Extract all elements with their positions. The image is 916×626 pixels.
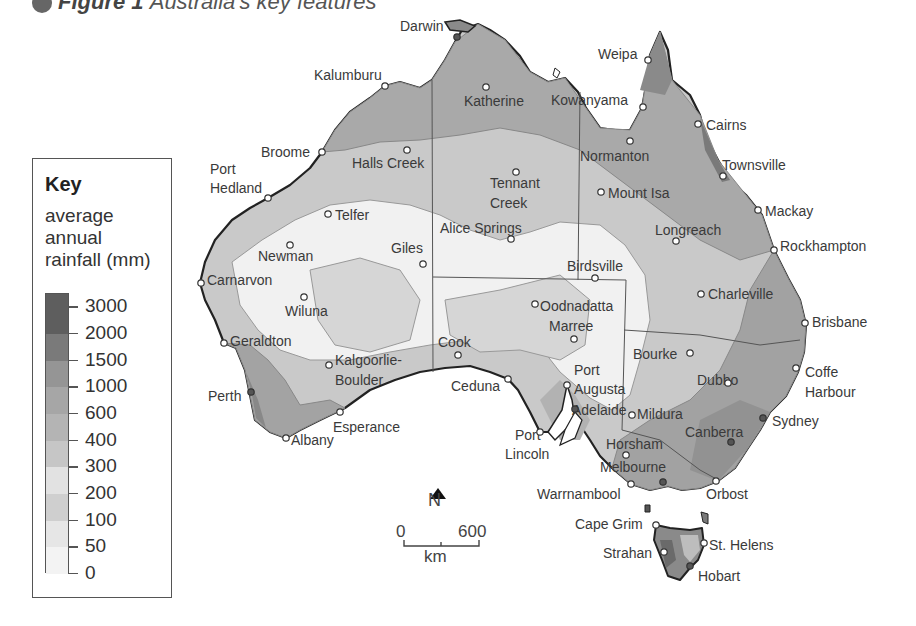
town-marker-icon xyxy=(598,189,604,195)
town-marker-icon xyxy=(653,522,659,528)
capital-city-marker-icon xyxy=(248,389,254,395)
legend-label: 200 xyxy=(85,482,117,504)
town-marker-icon xyxy=(698,291,704,297)
town-marker-icon xyxy=(802,320,808,326)
legend-label: 2000 xyxy=(85,322,127,344)
town-marker-icon xyxy=(713,478,719,484)
legend-tick xyxy=(68,466,78,467)
town-marker-icon xyxy=(640,104,646,110)
town-marker-icon xyxy=(755,207,761,213)
town-marker-icon xyxy=(661,549,667,555)
town-marker-icon xyxy=(505,376,511,382)
town-marker-icon xyxy=(695,121,701,127)
town-marker-icon xyxy=(627,138,633,144)
town-marker-icon xyxy=(508,236,514,242)
legend-swatch xyxy=(46,361,68,388)
capital-city-marker-icon xyxy=(660,479,666,485)
town-marker-icon xyxy=(221,340,227,346)
rainfall-color-bar xyxy=(45,293,69,573)
town-marker-icon xyxy=(571,336,577,342)
town-marker-icon xyxy=(532,301,538,307)
town-marker-icon xyxy=(265,195,271,201)
town-marker-icon xyxy=(537,429,543,435)
town-marker-icon xyxy=(793,365,799,371)
legend-tick xyxy=(68,360,78,361)
legend-key: Key average annual rainfall (mm) 3000200… xyxy=(32,158,172,598)
legend-label: 400 xyxy=(85,429,117,451)
town-marker-icon xyxy=(283,435,289,441)
legend-label: 50 xyxy=(85,535,106,557)
town-marker-icon xyxy=(319,149,325,155)
capital-city-marker-icon xyxy=(572,406,578,412)
legend-label: 100 xyxy=(85,509,117,531)
legend-swatch xyxy=(46,441,68,468)
town-marker-icon xyxy=(513,169,519,175)
town-marker-icon xyxy=(725,380,731,386)
town-marker-icon xyxy=(337,409,343,415)
town-marker-icon xyxy=(455,352,461,358)
key-title: Key xyxy=(45,173,82,196)
legend-label: 0 xyxy=(85,562,96,584)
town-marker-icon xyxy=(771,247,777,253)
legend-swatch xyxy=(46,294,68,334)
town-marker-icon xyxy=(701,540,707,546)
legend-swatch xyxy=(46,334,68,361)
town-marker-icon xyxy=(623,452,629,458)
capital-city-marker-icon xyxy=(687,563,693,569)
legend-tick xyxy=(68,546,78,547)
town-marker-icon xyxy=(483,84,489,90)
legend-label: 600 xyxy=(85,402,117,424)
legend-tick xyxy=(68,386,78,387)
town-marker-icon xyxy=(629,412,635,418)
town-marker-icon xyxy=(404,147,410,153)
legend-tick xyxy=(68,520,78,521)
legend-label: 3000 xyxy=(85,295,127,317)
town-marker-icon xyxy=(326,362,332,368)
town-marker-icon xyxy=(301,294,307,300)
town-marker-icon xyxy=(198,280,204,286)
legend-tick xyxy=(68,573,78,574)
town-marker-icon xyxy=(720,173,726,179)
town-marker-icon xyxy=(325,211,331,217)
legend-tick xyxy=(68,440,78,441)
town-marker-icon xyxy=(564,382,570,388)
capital-city-marker-icon xyxy=(454,34,460,40)
town-marker-icon xyxy=(420,261,426,267)
capital-city-marker-icon xyxy=(728,439,734,445)
town-marker-icon xyxy=(687,350,693,356)
legend-tick xyxy=(68,493,78,494)
legend-swatch xyxy=(46,387,68,414)
key-subtitle: average annual rainfall (mm) xyxy=(45,205,151,271)
legend-label: 1000 xyxy=(85,375,127,397)
legend-swatch xyxy=(46,467,68,494)
town-marker-icon xyxy=(628,481,634,487)
town-marker-icon xyxy=(382,83,388,89)
legend-label: 300 xyxy=(85,455,117,477)
legend-tick xyxy=(68,333,78,334)
capital-city-marker-icon xyxy=(760,415,766,421)
legend-tick xyxy=(68,413,78,414)
legend-swatch xyxy=(46,414,68,441)
legend-swatch xyxy=(46,521,68,548)
legend-tick xyxy=(68,306,78,307)
town-marker-icon xyxy=(287,242,293,248)
town-marker-icon xyxy=(592,275,598,281)
legend-swatch xyxy=(46,494,68,521)
legend-label: 1500 xyxy=(85,349,127,371)
town-marker-icon xyxy=(645,57,651,63)
town-marker-icon xyxy=(673,238,679,244)
legend-swatch xyxy=(46,547,68,574)
